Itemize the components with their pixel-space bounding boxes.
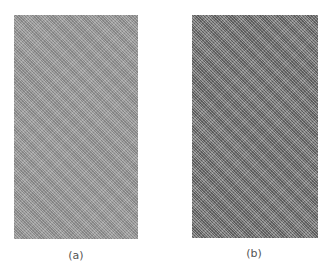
texture-panel-b: [192, 15, 318, 238]
texture-panel-a: [14, 15, 138, 239]
caption-b: (b): [234, 247, 274, 260]
caption-a: (a): [56, 249, 96, 262]
